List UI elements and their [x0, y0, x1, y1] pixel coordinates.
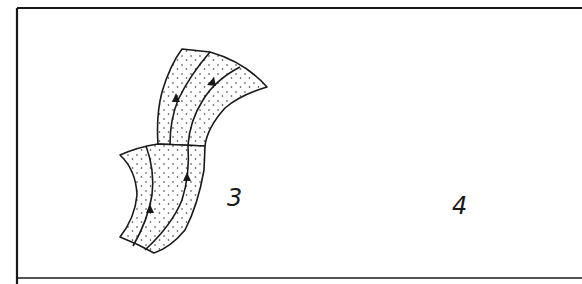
figure-3-shape	[120, 49, 267, 253]
diagram-canvas	[0, 0, 582, 284]
figure-border	[17, 8, 582, 284]
figure-4-label: 4	[452, 194, 467, 218]
figure-3-label: 3	[227, 186, 242, 210]
